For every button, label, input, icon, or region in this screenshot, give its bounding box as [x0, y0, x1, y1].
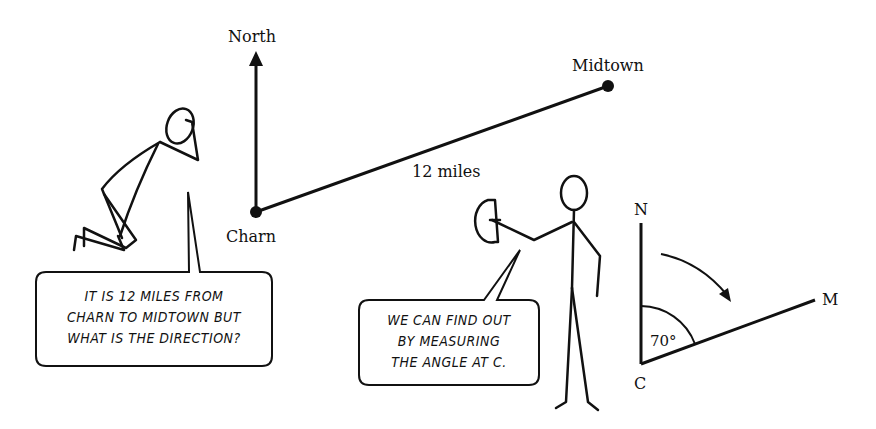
rotation-arrow-icon: [719, 288, 731, 302]
midtown-point: [602, 80, 614, 92]
left-bubble-text: IT IS 12 MILES FROM CHARN TO MIDTOWN BUT…: [36, 286, 272, 349]
left-bubble-line-1: IT IS 12 MILES FROM: [36, 286, 272, 307]
charn-label: Charn: [226, 227, 276, 246]
right-bubble-line-1: WE CAN FIND OUT: [359, 310, 539, 331]
left-bubble-line-2: CHARN TO MIDTOWN BUT: [36, 307, 272, 328]
north-label: North: [228, 27, 276, 46]
bearing-diagram: North Midtown Charn 12 miles N M C 70° I…: [0, 0, 876, 429]
kneeling-figure: [74, 105, 198, 250]
north-arrow: [249, 51, 263, 212]
midtown-label: Midtown: [572, 56, 644, 75]
distance-label: 12 miles: [412, 162, 481, 181]
angle-label: 70°: [650, 332, 677, 350]
compass-m-label: M: [822, 290, 838, 309]
compass-c-label: C: [634, 374, 646, 393]
left-bubble-line-3: WHAT IS THE DIRECTION?: [36, 328, 272, 349]
north-arrowhead-icon: [249, 51, 263, 66]
right-bubble-line-2: BY MEASURING: [359, 331, 539, 352]
compass-n-label: N: [634, 200, 648, 219]
charn-point: [250, 206, 262, 218]
right-bubble-line-3: THE ANGLE AT C.: [359, 352, 539, 373]
right-bubble-text: WE CAN FIND OUT BY MEASURING THE ANGLE A…: [359, 310, 539, 373]
route-line: [250, 80, 614, 218]
